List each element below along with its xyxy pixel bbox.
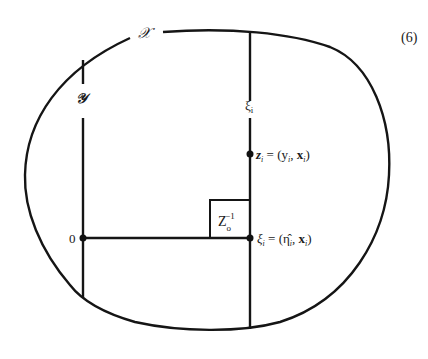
origin-label: 0 (69, 231, 76, 246)
set-y-label: 𝒴 (76, 91, 91, 106)
xi-point (247, 235, 254, 242)
origin-point (80, 235, 87, 242)
sampling-diagram: 𝒳 (6) 𝒴 ξi Zo−1 0 zi = (yi, xi) ξi = (η̂… (0, 0, 428, 359)
operator-label: Zo−1 (218, 211, 235, 233)
set-x-boundary (25, 30, 389, 330)
equation-number: (6) (401, 30, 418, 46)
z-point (247, 151, 254, 158)
set-x-label: 𝒳 (138, 25, 155, 41)
xi-line-label: ξi (245, 98, 254, 115)
xi-point-label: ξi = (η̂i, xi) (257, 231, 312, 248)
z-point-label: zi = (yi, xi) (255, 147, 310, 164)
